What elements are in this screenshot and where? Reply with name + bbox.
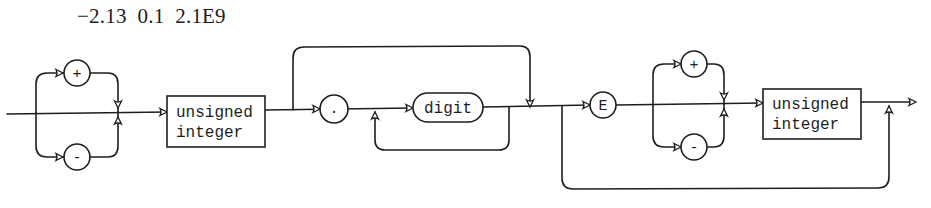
exponent-e-label: E	[598, 98, 607, 115]
decimal-point-node: .	[320, 95, 348, 123]
exit-arrow-icon	[909, 99, 916, 106]
exponent-minus-label: -	[689, 140, 698, 157]
minus-sign-node: -	[64, 144, 90, 170]
unsigned-integer-line1: unsigned	[176, 104, 253, 122]
decimal-point-label: .	[329, 101, 338, 118]
exponent-unsigned-integer-node: unsigned integer	[756, 89, 861, 139]
unsigned-integer-node: unsigned integer	[160, 96, 265, 147]
exponent-unsigned-integer-line1: unsigned	[772, 96, 849, 114]
exponent-plus-node: +	[681, 51, 707, 77]
plus-label: +	[72, 66, 81, 83]
digit-node: digit	[413, 93, 483, 122]
minus-label: -	[72, 150, 81, 167]
exponent-part: E + - unsigned integer	[562, 51, 893, 189]
digit-label: digit	[424, 100, 472, 118]
sign-choice-1: + -	[36, 60, 122, 170]
exponent-plus-label: +	[689, 57, 698, 74]
plus-sign-node: +	[64, 60, 90, 86]
unsigned-integer-line2: integer	[176, 124, 243, 142]
syntax-diagram: + - unsigned integer . digit	[0, 0, 931, 208]
exponent-unsigned-integer-line2: integer	[772, 116, 839, 134]
exponent-minus-node: -	[681, 134, 707, 160]
exponent-e-node: E	[590, 92, 616, 118]
sign-choice-2: + -	[653, 51, 728, 160]
fraction-part: . digit	[293, 46, 534, 150]
